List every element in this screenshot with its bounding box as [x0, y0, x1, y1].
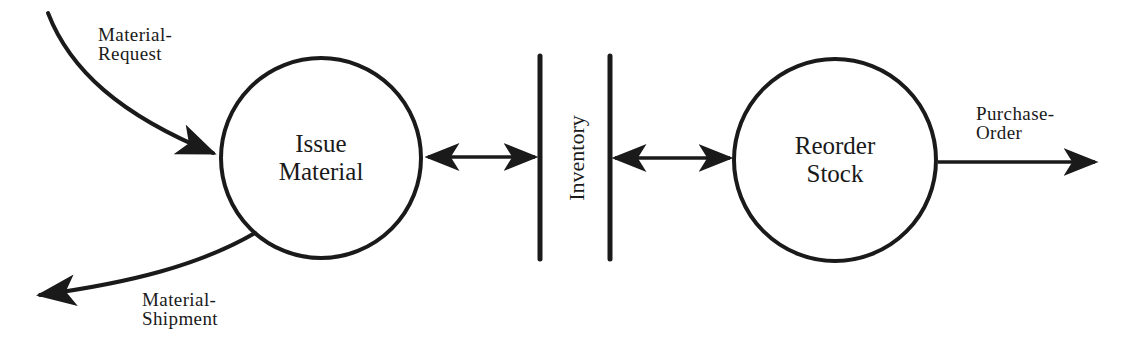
issue-material-label-line1: Issue: [279, 130, 364, 158]
material-shipment-label-line1: Material-: [142, 290, 218, 309]
purchase-order-label-line1: Purchase-: [976, 104, 1055, 123]
material-request-label-line2: Request: [98, 44, 172, 63]
material-request-label: Material- Request: [98, 25, 172, 63]
material-request-label-line1: Material-: [98, 25, 172, 44]
issue-material-process-label: Issue Material: [279, 130, 364, 186]
material-shipment-label: Material- Shipment: [142, 290, 218, 328]
purchase-order-label: Purchase- Order: [976, 104, 1055, 142]
material-shipment-label-line2: Shipment: [142, 309, 218, 328]
reorder-stock-label-line2: Stock: [795, 160, 876, 188]
issue-material-label-line2: Material: [279, 158, 364, 186]
reorder-stock-process-label: Reorder Stock: [795, 132, 876, 188]
inventory-store-label: Inventory: [564, 115, 590, 201]
purchase-order-label-line2: Order: [976, 123, 1055, 142]
material-shipment-flow-arrow: [40, 233, 255, 295]
reorder-stock-label-line1: Reorder: [795, 132, 876, 160]
